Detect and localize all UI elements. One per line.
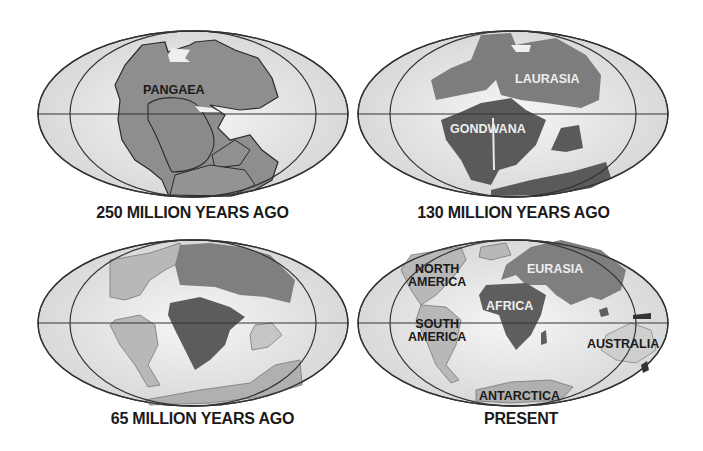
globe-130-mya bbox=[351, 0, 703, 225]
map-panel-250-mya: PANGAEA 250 MILLION YEARS AGO bbox=[0, 0, 351, 225]
label-antarctica: ANTARCTICA bbox=[479, 390, 560, 403]
label-africa: AFRICA bbox=[486, 300, 533, 313]
caption-250-mya: 250 MILLION YEARS AGO bbox=[85, 204, 300, 222]
map-panel-present: NORTHAMERICA SOUTHAMERICA EURASIA AFRICA… bbox=[351, 225, 703, 451]
label-australia: AUSTRALIA bbox=[587, 338, 659, 351]
caption-65-mya: 65 MILLION YEARS AGO bbox=[100, 410, 305, 428]
caption-present: PRESENT bbox=[471, 410, 571, 428]
globe-250-mya bbox=[0, 0, 351, 225]
map-panel-130-mya: LAURASIA GONDWANA 130 MILLION YEARS AGO bbox=[351, 0, 703, 225]
label-pangaea: PANGAEA bbox=[143, 84, 205, 97]
label-laurasia: LAURASIA bbox=[515, 73, 580, 86]
label-gondwana: GONDWANA bbox=[450, 123, 526, 136]
label-eurasia: EURASIA bbox=[527, 263, 583, 276]
label-south-america: SOUTHAMERICA bbox=[408, 318, 466, 344]
caption-130-mya: 130 MILLION YEARS AGO bbox=[406, 204, 621, 222]
map-panel-65-mya: 65 MILLION YEARS AGO bbox=[0, 225, 351, 451]
label-north-america: NORTHAMERICA bbox=[408, 263, 466, 289]
